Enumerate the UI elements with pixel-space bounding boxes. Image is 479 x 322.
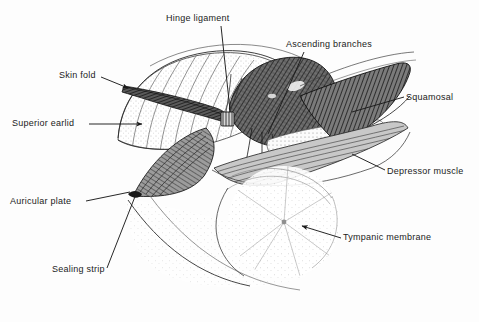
figure-canvas: Hinge ligament Skin fold Superior earlid… — [0, 0, 479, 322]
label-squamosal: Squamosal — [406, 92, 453, 102]
label-sealing-strip: Sealing strip — [52, 264, 105, 274]
label-auricular-plate: Auricular plate — [10, 196, 71, 206]
label-skin-fold: Skin fold — [59, 70, 96, 80]
leader-auricular-plate — [86, 192, 130, 201]
label-superior-earlid: Superior earlid — [12, 118, 74, 128]
leader-depressor-muscle — [352, 154, 385, 170]
label-ascending-branches: Ascending branches — [286, 39, 372, 49]
label-hinge-ligament: Hinge ligament — [166, 13, 230, 23]
label-depressor-muscle: Depressor muscle — [387, 166, 464, 176]
label-tympanic-membrane: Tympanic membrane — [343, 232, 431, 242]
leader-skin-fold — [101, 77, 128, 88]
